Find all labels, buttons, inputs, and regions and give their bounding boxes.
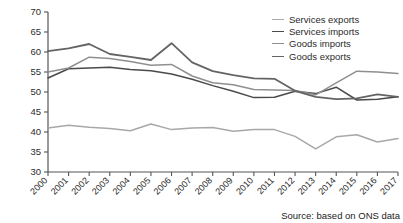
- svg-text:55: 55: [30, 66, 41, 77]
- svg-text:2007: 2007: [172, 175, 193, 196]
- svg-text:2016: 2016: [358, 175, 379, 196]
- svg-text:60: 60: [30, 46, 41, 57]
- svg-text:2013: 2013: [296, 175, 317, 196]
- legend-item-goods-exports[interactable]: Goods exports: [272, 50, 359, 62]
- svg-text:70: 70: [30, 6, 41, 17]
- svg-text:40: 40: [30, 126, 41, 137]
- svg-text:45: 45: [30, 106, 41, 117]
- svg-text:2002: 2002: [69, 175, 90, 196]
- svg-text:2008: 2008: [193, 175, 214, 196]
- legend-item-services-exports[interactable]: Services exports: [272, 13, 359, 25]
- source-note: Source: based on ONS data: [281, 210, 400, 221]
- svg-text:2017: 2017: [378, 175, 399, 196]
- y-axis-ticks: 303540455055606570: [30, 6, 48, 177]
- svg-text:50: 50: [30, 86, 41, 97]
- chart-container: % of UK exports and imports with the EU …: [0, 0, 403, 223]
- svg-text:35: 35: [30, 146, 41, 157]
- chart-legend: Services exports Services imports Goods …: [272, 13, 359, 63]
- svg-text:2000: 2000: [28, 175, 49, 196]
- svg-text:2011: 2011: [255, 175, 276, 196]
- legend-swatch-services-imports: [272, 31, 284, 32]
- legend-label-goods-imports: Goods imports: [289, 38, 351, 49]
- legend-swatch-services-exports: [272, 19, 284, 20]
- x-axis-ticks: 2000200120022003200420052006200720082009…: [28, 172, 399, 197]
- legend-swatch-goods-imports: [272, 43, 284, 44]
- svg-text:65: 65: [30, 26, 41, 37]
- svg-text:2009: 2009: [213, 175, 234, 196]
- legend-label-services-imports: Services imports: [289, 26, 359, 37]
- svg-text:2006: 2006: [152, 175, 173, 196]
- legend-label-goods-exports: Goods exports: [289, 51, 351, 62]
- svg-text:2010: 2010: [234, 175, 255, 196]
- legend-item-services-imports[interactable]: Services imports: [272, 25, 359, 37]
- svg-text:2004: 2004: [111, 175, 132, 196]
- svg-text:2001: 2001: [49, 175, 70, 196]
- svg-text:2003: 2003: [90, 175, 111, 196]
- svg-text:2014: 2014: [316, 175, 337, 196]
- legend-item-goods-imports[interactable]: Goods imports: [272, 38, 359, 50]
- svg-text:2015: 2015: [337, 175, 358, 196]
- legend-swatch-goods-exports: [272, 56, 284, 57]
- legend-label-services-exports: Services exports: [289, 14, 359, 25]
- svg-text:30: 30: [30, 166, 41, 177]
- svg-text:2012: 2012: [275, 175, 296, 196]
- svg-text:2005: 2005: [131, 175, 152, 196]
